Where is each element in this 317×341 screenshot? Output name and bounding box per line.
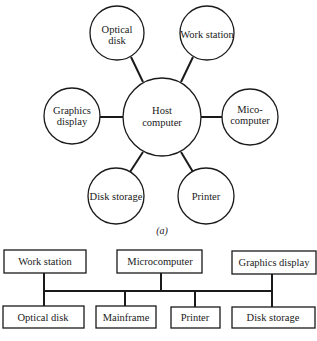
link-disk-storage: [130, 152, 143, 172]
optical-disk-label-line2: disk: [108, 35, 126, 46]
optical-disk-box-label: Optical disk: [17, 312, 69, 323]
link-optical-disk: [131, 57, 143, 82]
figure-caption-a: (a): [156, 225, 168, 237]
disk-storage-box-label: Disk storage: [247, 312, 300, 323]
printer-box-label: Printer: [181, 312, 210, 323]
graphics-display-box-label: Graphics display: [239, 257, 311, 268]
printer-label: Printer: [192, 191, 221, 202]
microcomputer-box-label: Microcomputer: [127, 256, 193, 267]
host-label-line1: Host: [152, 105, 172, 116]
mainframe-box-label: Mainframe: [103, 312, 150, 323]
disk-storage-label: Disk storage: [90, 191, 143, 202]
network-topology-figure: Host computer Optical disk Work station …: [0, 0, 317, 341]
work-station-box-label: Work station: [18, 256, 72, 267]
graphics-display-label-line2: display: [57, 116, 88, 127]
host-label-line2: computer: [142, 117, 182, 128]
mico-computer-label-line2: computer: [230, 115, 270, 126]
graphics-display-label-line1: Graphics: [53, 105, 91, 116]
optical-disk-label-line1: Optical: [102, 24, 133, 35]
work-station-label: Work station: [180, 29, 234, 40]
link-work-station: [181, 57, 193, 82]
link-printer: [181, 152, 193, 172]
mico-computer-label-line1: Mico-: [237, 104, 263, 115]
